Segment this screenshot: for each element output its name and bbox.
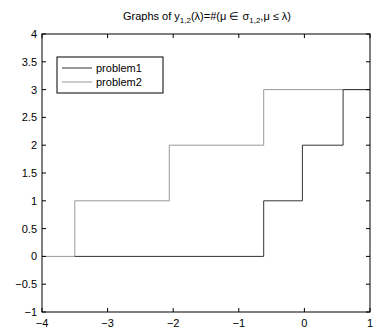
x-tick-label: 0 (301, 317, 307, 329)
x-tick-label: −1 (233, 317, 246, 329)
y-tick-label: 1 (31, 195, 37, 207)
y-tick-label: −1 (24, 306, 37, 318)
x-tick-label: −2 (167, 317, 180, 329)
y-tick-label: 2.5 (22, 111, 37, 123)
legend: problem1problem2 (57, 57, 163, 93)
x-tick-label: −4 (36, 317, 49, 329)
legend-label-problem1: problem1 (96, 62, 142, 74)
y-tick-label: 2 (31, 139, 37, 151)
y-tick-label: −0.5 (15, 278, 37, 290)
x-tick-label: −3 (101, 317, 114, 329)
y-tick-label: 3 (31, 84, 37, 96)
y-tick-label: 4 (31, 28, 37, 40)
y-tick-label: 1.5 (22, 167, 37, 179)
x-tick-label: 1 (367, 317, 373, 329)
y-tick-label: 0 (31, 250, 37, 262)
y-tick-label: 3.5 (22, 56, 37, 68)
y-tick-label: 0.5 (22, 223, 37, 235)
legend-label-problem2: problem2 (96, 76, 142, 88)
chart-figure: Graphs of y1,2(λ)=#(μ ∈ σ1,2,μ ≤ λ) −4−3… (0, 0, 385, 335)
